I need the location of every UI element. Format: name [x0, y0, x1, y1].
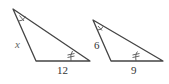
triangle-left: x 12	[13, 9, 90, 76]
similar-triangles-diagram: x 12 6 9	[0, 0, 169, 84]
triangle-right: 6 9	[93, 20, 163, 76]
side-label-x: x	[14, 38, 20, 50]
side-label-12: 12	[57, 64, 68, 76]
side-label-6: 6	[94, 39, 100, 51]
side-label-9: 9	[131, 64, 137, 76]
triangle-left-outline	[13, 9, 90, 61]
angle-arc-bottom-right-left	[71, 51, 73, 61]
